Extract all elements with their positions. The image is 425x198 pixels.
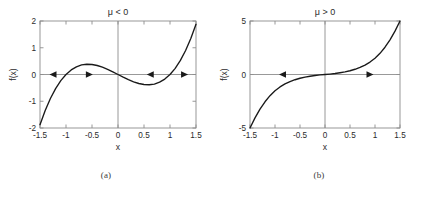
plot-b-ytick-1: 0 — [241, 71, 246, 80]
plot-a-ylabel: f(x) — [8, 68, 18, 81]
plot-a-ytick-4: -2 — [29, 124, 37, 133]
plot-a-arrow-4-right — [181, 71, 188, 77]
plot-b-xlabel: x — [323, 142, 328, 152]
plot-a-xtick-6: 1.5 — [190, 131, 202, 140]
plot-a-xtick-1: -1 — [62, 131, 70, 140]
plot-b-arrow-1-left — [279, 71, 286, 77]
plot-a-svg: μ < 0 — [0, 0, 212, 170]
plot-a-ytick-3: -1 — [29, 97, 37, 106]
plot-a-ytick-2: 0 — [31, 71, 36, 80]
plot-panel-b: μ > 0 — [213, 0, 425, 198]
plot-b-svg: μ > 0 — [213, 0, 425, 170]
plot-a-arrow-2-right — [86, 71, 93, 77]
plot-b-xtick-6: 1.5 — [394, 131, 406, 140]
plot-a-xtick-3: 0 — [116, 131, 121, 140]
plot-a-xtick-4: 0.5 — [138, 131, 150, 140]
plot-b-ytick-2: -5 — [239, 124, 247, 133]
plot-a-xtick-2: -0.5 — [85, 131, 100, 140]
plot-panel-a: μ < 0 — [0, 0, 212, 198]
plot-a-ytick-0: 2 — [31, 17, 36, 26]
plot-a-arrow-1-left — [50, 71, 57, 77]
plot-b-xtick-2: -0.5 — [293, 131, 308, 140]
plot-a-xlabel: x — [116, 142, 121, 152]
subfigure-caption-b: (b) — [213, 170, 425, 180]
plot-b-title: μ > 0 — [315, 7, 335, 17]
plot-b-xtick-4: 0.5 — [344, 131, 356, 140]
plot-a-title: μ < 0 — [108, 7, 128, 17]
plot-a-arrow-3-left — [147, 71, 154, 77]
plot-b-xtick-3: 0 — [323, 131, 328, 140]
plot-a-ytick-1: 1 — [31, 44, 36, 53]
subfigure-caption-a: (a) — [0, 170, 212, 180]
plot-b-arrow-2-right — [367, 71, 374, 77]
plot-b-ylabel: f(x) — [219, 68, 229, 81]
plot-b-xtick-1: -1 — [271, 131, 279, 140]
plot-b-xtick-5: 1 — [373, 131, 378, 140]
plot-a-xtick-5: 1 — [168, 131, 173, 140]
figure-container: μ < 0 — [0, 0, 425, 198]
plot-b-ytick-0: 5 — [241, 17, 246, 26]
